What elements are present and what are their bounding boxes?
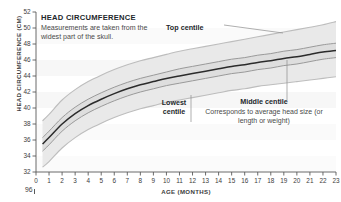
x-tick-label: 6 [112,177,116,184]
lowest-centile-callout: Lowest centile [152,99,196,117]
x-tick-label: 23 [332,177,340,184]
next-chart-tick-mark [34,189,35,194]
x-tick-label: 7 [126,177,130,184]
x-tick-label: 13 [202,177,210,184]
y-tick-label: 38 [23,120,31,127]
x-tick-label: 11 [176,177,183,184]
x-tick-label: 15 [228,177,236,184]
y-axis-title: HEAD CIRCUMFERENCE (CM) [15,0,22,134]
lowest-centile-label-line1: Lowest [152,99,196,108]
x-tick-label: 10 [163,177,171,184]
y-axis-ticks [33,12,37,172]
top-centile-callout: Top centile [166,16,203,34]
x-tick-label: 20 [293,177,301,184]
next-chart-axis-tick: 96 [25,186,35,194]
x-axis-title: AGE (MONTHS) [36,188,336,195]
x-tick-label: 12 [189,177,197,184]
y-tick-label: 40 [23,104,31,111]
lowest-centile-label-line2: centile [152,108,196,117]
middle-centile-callout: Middle centile Corresponds to average he… [205,97,323,125]
middle-centile-label: Middle centile [205,97,323,106]
x-tick-label: 17 [254,177,262,184]
x-tick-label: 4 [86,177,90,184]
next-chart-tick-label: 96 [25,186,33,193]
x-tick-label: 22 [319,177,327,184]
middle-centile-description: Corresponds to average head size (or len… [205,107,323,125]
y-tick-label: 50 [23,24,31,31]
x-tick-label: 8 [139,177,143,184]
x-tick-label: 1 [47,177,51,184]
x-tick-label: 14 [215,177,223,184]
y-tick-label: 42 [23,88,31,95]
x-tick-label: 2 [60,177,64,184]
y-axis-tick-labels: 3234363840424446485052 [23,8,31,175]
x-tick-label: 19 [280,177,288,184]
y-tick-label: 46 [23,56,31,63]
x-tick-label: 9 [152,177,156,184]
x-tick-label: 18 [267,177,275,184]
x-tick-label: 3 [73,177,77,184]
y-tick-label: 52 [23,8,31,15]
chart-title-block: HEAD CIRCUMFERENCE Measurements are take… [41,13,159,42]
chart-description: Measurements are taken from the widest p… [41,24,159,42]
x-axis-ticks [36,172,336,176]
head-circumference-chart-figure: 3234363840424446485052 01234567891011121… [0,0,341,202]
x-tick-label: 0 [34,177,38,184]
x-axis-tick-labels: 01234567891011121314151617181920212223 [34,177,340,184]
top-centile-label: Top centile [166,23,203,32]
x-tick-label: 16 [241,177,249,184]
chart-title: HEAD CIRCUMFERENCE [41,13,159,23]
y-tick-label: 34 [23,152,31,159]
x-tick-label: 5 [99,177,103,184]
y-tick-label: 32 [23,168,31,175]
y-tick-label: 48 [23,40,31,47]
y-tick-label: 44 [23,72,31,79]
y-tick-label: 36 [23,136,31,143]
x-tick-label: 21 [306,177,314,184]
